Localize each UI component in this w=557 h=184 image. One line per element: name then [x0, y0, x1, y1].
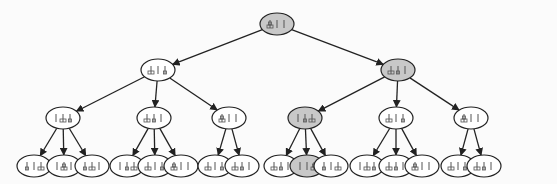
edges — [40, 30, 481, 156]
edge-arrow — [154, 129, 155, 155]
edge-arrow — [402, 128, 417, 155]
tree-node — [454, 107, 488, 129]
edge-arrow — [461, 129, 468, 155]
tree-node — [164, 155, 198, 177]
tree-node-highlighted — [381, 59, 415, 81]
tree-node — [137, 107, 171, 129]
edge-arrow — [218, 129, 226, 155]
nodes — [17, 13, 501, 177]
edge-arrow — [474, 129, 481, 155]
tree-canvas — [0, 0, 557, 184]
edge-arrow — [173, 30, 263, 65]
tree-node — [225, 155, 259, 177]
tree-node — [46, 107, 80, 129]
tree-node — [405, 155, 439, 177]
search-tree-diagram — [0, 0, 557, 184]
edge-arrow — [133, 128, 148, 155]
edge-arrow — [160, 128, 175, 155]
tree-node — [17, 155, 51, 177]
edge-arrow — [155, 81, 157, 107]
edge-arrow — [305, 129, 306, 155]
tree-node-highlighted — [260, 13, 294, 35]
tree-node — [467, 155, 501, 177]
tree-node — [314, 155, 348, 177]
edge-arrow — [63, 129, 64, 155]
edge-arrow — [318, 77, 384, 111]
tree-node-highlighted — [288, 107, 322, 129]
edge-arrow — [311, 128, 326, 155]
tree-node — [379, 107, 413, 129]
edge-arrow — [373, 128, 390, 156]
edge-arrow — [40, 128, 57, 156]
edge-arrow — [76, 77, 144, 111]
tree-node — [212, 107, 246, 129]
edge-arrow — [396, 81, 397, 107]
tree-node — [141, 59, 175, 81]
tree-node — [75, 155, 109, 177]
edge-arrow — [410, 78, 459, 110]
edge-arrow — [286, 128, 300, 155]
edge-arrow — [69, 128, 86, 156]
edge-arrow — [232, 129, 239, 155]
edge-arrow — [292, 30, 384, 65]
edge-arrow — [170, 78, 217, 110]
